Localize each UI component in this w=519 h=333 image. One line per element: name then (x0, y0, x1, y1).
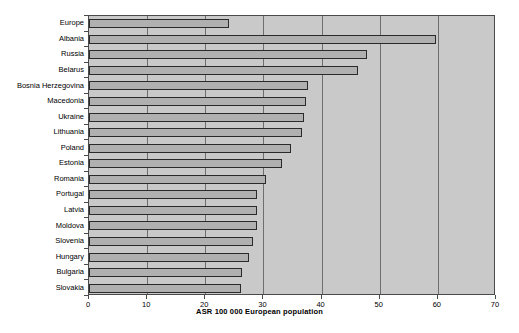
y-axis-tick-label: Macedonia (0, 96, 84, 105)
bar (89, 175, 266, 184)
bar (89, 206, 257, 215)
bar (89, 221, 257, 230)
bar (89, 97, 306, 106)
bar (89, 268, 242, 277)
bar-row (89, 249, 494, 265)
y-axis-labels: EuropeAlbaniaRussiaBelarusBosnia Herzego… (0, 15, 84, 295)
bar (89, 81, 308, 90)
bar-row (89, 187, 494, 203)
bar-row (89, 280, 494, 296)
bar-row (89, 47, 494, 63)
plot-area (88, 15, 495, 295)
x-axis-title: ASR 100 000 European population (0, 307, 519, 316)
bar (89, 66, 358, 75)
x-axis-tick (321, 295, 322, 299)
bar-row (89, 109, 494, 125)
bar-row (89, 265, 494, 281)
x-axis-tick (379, 295, 380, 299)
bar (89, 35, 436, 44)
x-axis-tick (437, 295, 438, 299)
bar-row (89, 234, 494, 250)
x-axis-tick (262, 295, 263, 299)
bar (89, 19, 229, 28)
bar (89, 190, 257, 199)
bar-row (89, 125, 494, 141)
bars-layer (89, 16, 494, 294)
y-axis-tick-label: Bosnia Herzegovina (0, 81, 84, 90)
bar (89, 128, 302, 137)
x-axis-tick (204, 295, 205, 299)
y-axis-tick-label: Albania (0, 34, 84, 43)
y-axis-tick-label: Bulgaria (0, 267, 84, 276)
y-axis-tick-label: Romania (0, 174, 84, 183)
bar-row (89, 78, 494, 94)
x-axis-tick (88, 295, 89, 299)
bar-row (89, 156, 494, 172)
y-axis-tick-label: Russia (0, 49, 84, 58)
y-axis-tick-label: Lithuania (0, 127, 84, 136)
x-axis-tick (146, 295, 147, 299)
y-axis-tick-label: Slovakia (0, 283, 84, 292)
bar-row (89, 94, 494, 110)
y-axis-tick-label: Belarus (0, 65, 84, 74)
bar-row (89, 172, 494, 188)
bar-row (89, 203, 494, 219)
y-axis-tick-label: Hungary (0, 252, 84, 261)
bar-row (89, 16, 494, 32)
x-axis-tick (495, 295, 496, 299)
bar-row (89, 218, 494, 234)
bar (89, 144, 291, 153)
bar (89, 253, 249, 262)
bar (89, 159, 282, 168)
y-axis-tick-label: Europe (0, 18, 84, 27)
bar-row (89, 63, 494, 79)
y-axis-tick-label: Poland (0, 143, 84, 152)
y-axis-tick-label: Portugal (0, 189, 84, 198)
y-axis-tick-label: Latvia (0, 205, 84, 214)
bar-row (89, 140, 494, 156)
bar (89, 50, 367, 59)
bar (89, 284, 241, 293)
y-axis-tick-label: Moldova (0, 221, 84, 230)
bar (89, 237, 253, 246)
y-axis-tick-label: Slovenia (0, 236, 84, 245)
bar (89, 113, 304, 122)
bar-row (89, 32, 494, 48)
bar-chart: EuropeAlbaniaRussiaBelarusBosnia Herzego… (0, 0, 519, 333)
y-axis-tick-label: Ukraine (0, 112, 84, 121)
y-axis-tick-label: Estonia (0, 158, 84, 167)
